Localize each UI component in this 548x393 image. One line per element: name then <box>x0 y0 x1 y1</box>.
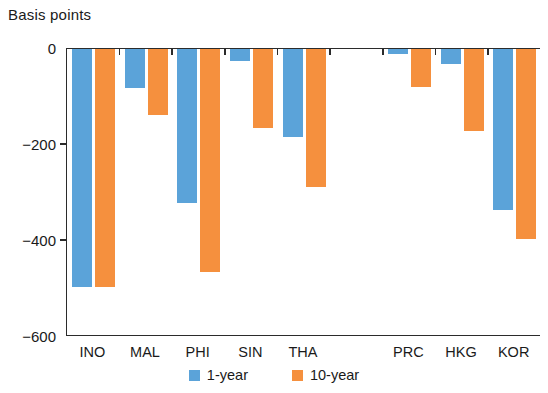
bar-kor-10-year <box>516 49 536 239</box>
bar-phi-10-year <box>200 49 220 272</box>
bar-ino-10-year <box>95 49 115 287</box>
bar-prc-10-year <box>411 49 431 87</box>
legend-label: 10-year <box>310 367 359 383</box>
x-axis-tick-mark <box>119 48 121 55</box>
bar-tha-10-year <box>306 49 326 187</box>
bar-hkg-10-year <box>464 49 484 131</box>
bar-sin-1-year <box>230 49 250 61</box>
x-axis-tick-mark <box>382 48 384 55</box>
bar-ino-1-year <box>72 49 92 287</box>
legend-item-10-year[interactable]: 10-year <box>292 367 359 383</box>
legend-swatch-icon <box>189 370 200 381</box>
x-axis-tick-mark <box>487 48 489 55</box>
bar-mal-10-year <box>148 49 168 115</box>
x-axis-category-label: THA <box>289 344 318 360</box>
x-axis-tick-mark <box>277 48 279 55</box>
x-axis-category-label: KOR <box>498 344 529 360</box>
bar-prc-1-year <box>388 49 408 54</box>
x-axis-tick-mark <box>171 48 173 55</box>
legend-item-1-year[interactable]: 1-year <box>189 367 248 383</box>
x-axis-category-label: MAL <box>130 344 160 360</box>
x-axis-category-label: INO <box>79 344 105 360</box>
y-axis-tick-label: −200 <box>0 136 56 153</box>
x-axis-tick-mark <box>329 48 331 55</box>
bar-mal-1-year <box>125 49 145 88</box>
x-axis-category-label: PHI <box>186 344 210 360</box>
y-axis-tick-label: −400 <box>0 232 56 249</box>
y-axis-tick-label: −600 <box>0 328 56 345</box>
bar-chart-figure: Basis points 0−200−400−600 INOMALPHISINT… <box>0 0 548 393</box>
legend-label: 1-year <box>207 367 248 383</box>
bar-kor-1-year <box>493 49 513 210</box>
bars-layer <box>67 49 540 335</box>
bar-tha-1-year <box>283 49 303 137</box>
y-axis-tick-label: 0 <box>0 40 56 57</box>
chart-legend: 1-year10-year <box>0 367 548 383</box>
x-axis-tick-mark <box>224 48 226 55</box>
bar-hkg-1-year <box>441 49 461 64</box>
x-axis-category-label: PRC <box>393 344 424 360</box>
bar-phi-1-year <box>177 49 197 203</box>
x-axis-category-label: SIN <box>238 344 262 360</box>
legend-swatch-icon <box>292 370 303 381</box>
x-axis-category-label: HKG <box>445 344 476 360</box>
x-axis-tick-mark <box>435 48 437 55</box>
plot-area <box>66 48 540 336</box>
bar-sin-10-year <box>253 49 273 128</box>
